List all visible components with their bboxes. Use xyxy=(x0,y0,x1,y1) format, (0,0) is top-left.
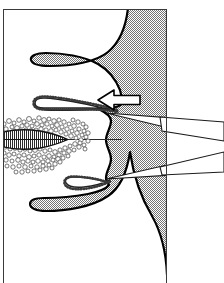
histology-diagram-svg xyxy=(0,0,224,283)
figure-root xyxy=(0,0,224,283)
